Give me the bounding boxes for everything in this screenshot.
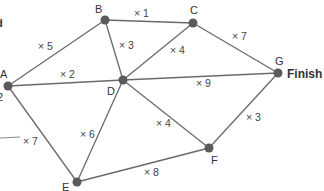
- weight-b-c: × 1: [134, 7, 149, 19]
- label-a: A: [0, 68, 8, 80]
- weight-b-d: × 3: [119, 39, 134, 51]
- weight-c-g: × 7: [232, 30, 247, 42]
- edge-a-b: [8, 20, 105, 86]
- edge-b-c: [105, 20, 193, 23]
- weight-d-f: × 4: [156, 117, 171, 129]
- weight-a-d: × 2: [60, 68, 75, 80]
- label-g: G: [275, 55, 284, 67]
- weight-f-g: × 3: [246, 111, 261, 123]
- label-c: C: [190, 4, 198, 16]
- weighted-graph-diagram: × 5 × 2 × 7 × 1 × 3 × 4 × 7 × 9 × 4 × 6 …: [0, 0, 324, 191]
- node-e: [73, 178, 82, 187]
- node-a: [4, 82, 13, 91]
- partial-arrow: [0, 137, 20, 138]
- node-b: [101, 16, 110, 25]
- weight-a-b: × 5: [38, 40, 53, 52]
- node-d: [119, 76, 128, 85]
- edge-e-f: [77, 148, 209, 182]
- edge-f-g: [209, 73, 278, 148]
- weight-e-f: × 8: [144, 166, 159, 178]
- label-e: E: [62, 181, 69, 191]
- finish-label: Finish: [287, 67, 322, 81]
- label-b: B: [95, 3, 102, 15]
- label-a-sub: 2: [0, 91, 3, 103]
- node-g: [274, 69, 283, 78]
- weight-d-g: × 9: [196, 77, 211, 89]
- edge-weights: × 5 × 2 × 7 × 1 × 3 × 4 × 7 × 9 × 4 × 6 …: [23, 7, 261, 178]
- edge-a-d: [8, 80, 123, 86]
- edge-a-e: [8, 86, 77, 182]
- node-c: [189, 19, 198, 28]
- label-d: D: [107, 85, 115, 97]
- label-f: F: [211, 154, 218, 166]
- weight-d-e: × 6: [80, 128, 95, 140]
- weight-a-e: × 7: [23, 135, 38, 147]
- weight-c-d: × 4: [170, 44, 185, 56]
- edge-d-f: [123, 80, 209, 148]
- node-f: [205, 144, 214, 153]
- node-labels: A 2 B C D E F G Finish d: [0, 3, 322, 191]
- cropped-text-top-left: d: [0, 17, 3, 29]
